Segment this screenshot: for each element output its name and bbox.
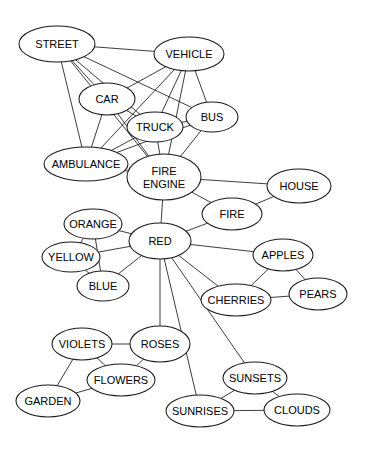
node-shape-pears[interactable] xyxy=(289,278,347,310)
node-shape-roses[interactable] xyxy=(130,326,190,362)
node-garden[interactable]: GARDEN xyxy=(16,385,80,417)
node-fire[interactable]: FIRE xyxy=(202,198,262,230)
node-pears[interactable]: PEARS xyxy=(289,278,347,310)
edge-apples-cherries xyxy=(251,269,268,286)
edge-red-cherries xyxy=(179,255,219,286)
node-cherries[interactable]: CHERRIES xyxy=(201,284,271,316)
node-shape-sunrises[interactable] xyxy=(166,395,234,427)
node-shape-garden[interactable] xyxy=(16,385,80,417)
node-house[interactable]: HOUSE xyxy=(267,169,331,203)
node-vehicle[interactable]: VEHICLE xyxy=(154,37,224,71)
edge-fire_engine-house xyxy=(201,179,267,183)
node-roses[interactable]: ROSES xyxy=(130,326,190,362)
edge-street-vehicle xyxy=(95,47,155,52)
node-shape-truck[interactable] xyxy=(127,112,183,142)
node-shape-ambulance[interactable] xyxy=(44,147,128,181)
node-shape-fire[interactable] xyxy=(202,198,262,230)
edge-yellow-blue xyxy=(85,270,89,273)
node-violets[interactable]: VIOLETS xyxy=(52,328,112,360)
edge-car-ambulance xyxy=(91,115,101,147)
edge-vehicle-fire_engine xyxy=(169,71,186,154)
node-shape-violets[interactable] xyxy=(52,328,112,360)
edge-flowers-garden xyxy=(76,388,92,393)
edge-sunsets-clouds xyxy=(273,391,280,396)
edge-red-blue xyxy=(118,256,141,274)
node-flowers[interactable]: FLOWERS xyxy=(87,364,155,396)
node-ambulance[interactable]: AMBULANCE xyxy=(44,147,128,181)
edge-sunsets-sunrises xyxy=(221,390,235,398)
node-fire_engine[interactable]: FIREENGINE xyxy=(127,154,201,200)
edge-truck-fire_engine xyxy=(158,142,160,154)
edge-apples-pears xyxy=(296,269,305,279)
node-apples[interactable]: APPLES xyxy=(253,239,313,271)
node-shape-clouds[interactable] xyxy=(264,394,330,426)
node-shape-sunsets[interactable] xyxy=(223,362,287,394)
edge-red-yellow xyxy=(98,246,130,252)
node-shape-car[interactable] xyxy=(79,83,135,115)
node-shape-yellow[interactable] xyxy=(42,242,100,272)
node-car[interactable]: CAR xyxy=(79,83,135,115)
node-shape-orange[interactable] xyxy=(64,209,122,239)
edge-fire-red xyxy=(186,223,207,231)
edge-truck-bus xyxy=(182,121,188,122)
edge-violets-flowers xyxy=(97,358,106,366)
edge-red-apples xyxy=(190,244,253,251)
edge-truck-ambulance xyxy=(111,138,135,151)
node-truck[interactable]: TRUCK xyxy=(127,112,183,142)
node-shape-vehicle[interactable] xyxy=(154,37,224,71)
edge-cherries-pears xyxy=(271,296,290,297)
node-shape-bus[interactable] xyxy=(186,102,238,132)
node-bus[interactable]: BUS xyxy=(186,102,238,132)
node-shape-blue[interactable] xyxy=(77,271,129,301)
semantic-network-diagram: STREETVEHICLECARTRUCKBUSAMBULANCEFIREENG… xyxy=(0,0,370,452)
node-yellow[interactable]: YELLOW xyxy=(42,242,100,272)
edge-roses-flowers xyxy=(136,359,143,366)
graph-svg: STREETVEHICLECARTRUCKBUSAMBULANCEFIREENG… xyxy=(0,0,370,452)
node-shape-flowers[interactable] xyxy=(87,364,155,396)
node-shape-cherries[interactable] xyxy=(201,284,271,316)
edge-red-orange xyxy=(119,231,132,234)
node-shape-fire_engine[interactable] xyxy=(127,154,201,200)
node-shape-red[interactable] xyxy=(129,223,191,259)
edge-house-fire xyxy=(256,197,274,205)
node-clouds[interactable]: CLOUDS xyxy=(264,394,330,426)
node-layer: STREETVEHICLECARTRUCKBUSAMBULANCEFIREENG… xyxy=(16,26,347,427)
edge-orange-yellow xyxy=(80,238,83,243)
node-blue[interactable]: BLUE xyxy=(77,271,129,301)
node-shape-house[interactable] xyxy=(267,169,331,203)
edge-vehicle-bus xyxy=(195,71,207,103)
edge-street-ambulance xyxy=(61,62,82,147)
node-shape-street[interactable] xyxy=(19,26,95,62)
node-red[interactable]: RED xyxy=(129,223,191,259)
edge-fire_engine-red xyxy=(161,200,162,223)
edge-fire_engine-fire xyxy=(192,192,211,202)
edge-violets-garden xyxy=(57,359,73,385)
node-sunsets[interactable]: SUNSETS xyxy=(223,362,287,394)
node-orange[interactable]: ORANGE xyxy=(64,209,122,239)
node-sunrises[interactable]: SUNRISES xyxy=(166,395,234,427)
node-shape-apples[interactable] xyxy=(253,239,313,271)
edge-bus-fire_engine xyxy=(180,131,201,157)
node-street[interactable]: STREET xyxy=(19,26,95,62)
